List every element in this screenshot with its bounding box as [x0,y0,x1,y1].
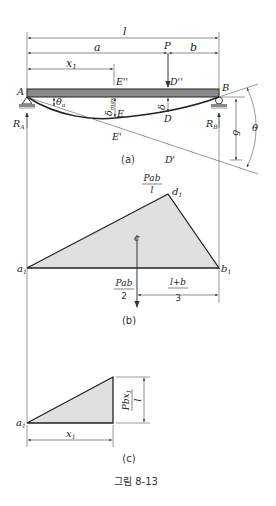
peak-label-num: Pab [143,173,161,183]
moment-area-triangle [27,194,219,268]
sublabel-b: (b) [122,315,136,326]
label-d1: d1 [172,186,182,198]
panel-a: l a b x1 P E'' D'' A B [12,25,258,174]
label-d-prime: D' [164,154,175,165]
label-b: b [190,41,197,54]
label-e-prime: E' [111,131,122,142]
label-e-double-prime: E'' [115,76,128,87]
panel-b: a1 b1 d1 Pab l c Pab 2 l+b 3 (b) [17,173,231,326]
resultant-label-den: 2 [121,291,127,301]
label-theta-a: θa [56,96,66,108]
label-load-p: P [163,40,171,51]
label-a: a [94,41,101,54]
panel-c: a1 Pbx1 l x1 (c) [16,377,150,464]
partial-moment-triangle [27,377,113,423]
label-delta-d: δ [156,104,167,110]
label-point-e: E [116,108,124,119]
label-x1: x1 [66,57,77,71]
label-point-a: A [16,86,24,97]
label-base-x1: x1 [66,428,75,440]
beam-deflection-figure: l a b x1 P E'' D'' A B [0,0,276,506]
figure-caption: 그림 8-13 [114,476,158,487]
label-point-d: D [163,113,172,124]
distance-label-num: l+b [170,277,186,287]
label-reaction-a: RA [12,118,25,130]
label-a1: a1 [17,263,27,275]
label-delta-max: δmax [103,97,115,116]
label-delta-total: δ [231,130,242,136]
label-b1: b1 [221,263,231,275]
sublabel-a: (a) [121,154,135,165]
tangent-line-a [27,97,258,174]
svg-text:Pbx1: Pbx1 [121,390,132,412]
label-theta: θ [252,122,258,133]
distance-label-den: 3 [175,293,181,303]
resultant-label-num: Pab [115,278,133,288]
svg-text:l: l [133,398,143,401]
label-a1-c: a1 [16,417,26,429]
label-reaction-b: RB [205,118,218,130]
peak-label-den: l [151,185,154,195]
label-point-b: B [221,82,229,93]
sublabel-c: (c) [122,453,135,464]
height-label: Pbx1 l [121,389,143,411]
label-d-double-prime: D'' [169,76,183,87]
label-l: l [123,25,127,38]
